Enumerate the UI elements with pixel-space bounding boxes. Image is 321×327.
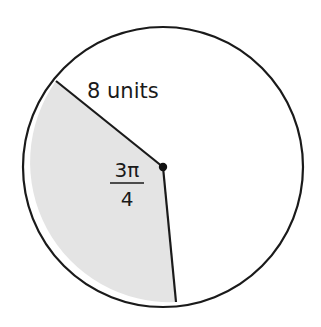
circle-diagram: 8 units 3π 4 <box>0 0 321 327</box>
shaded-sector <box>30 81 176 302</box>
radius-label: 8 units <box>87 79 159 103</box>
center-point <box>159 163 167 171</box>
angle-numerator: 3π <box>115 158 140 182</box>
angle-denominator: 4 <box>121 187 134 211</box>
